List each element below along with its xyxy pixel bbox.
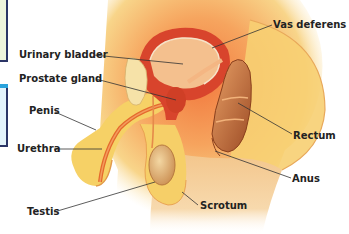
anatomy-diagram: Urinary bladder Prostate gland Penis Ure… [0,0,349,234]
leader-penis [55,112,96,130]
label-testis: Testis [27,206,59,217]
label-prostate-gland: Prostate gland [19,73,102,84]
label-vas-deferens: Vas deferens [273,19,346,30]
label-urinary-bladder: Urinary bladder [19,49,108,60]
label-rectum: Rectum [293,130,336,141]
label-penis: Penis [29,105,60,116]
label-anus: Anus [292,173,320,184]
label-scrotum: Scrotum [200,200,247,211]
testis-organ [149,145,175,185]
label-urethra: Urethra [17,143,60,154]
anatomy-illustration [0,0,349,234]
